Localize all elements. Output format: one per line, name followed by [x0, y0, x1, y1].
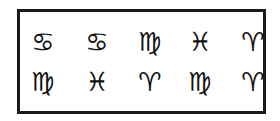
cancer-icon: ♋: [23, 27, 63, 57]
pisces-icon: ♓: [180, 27, 220, 57]
virgo-icon: ♍: [23, 67, 63, 97]
virgo-icon: ♍: [180, 67, 220, 97]
symbol-frame: [17, 9, 266, 114]
aries-icon: ♈: [233, 67, 273, 97]
pisces-icon: ♓: [77, 67, 117, 97]
cancer-icon: ♋: [77, 27, 117, 57]
aries-icon: ♈: [233, 27, 273, 57]
aries-icon: ♈: [130, 67, 170, 97]
virgo-icon: ♍: [130, 27, 170, 57]
